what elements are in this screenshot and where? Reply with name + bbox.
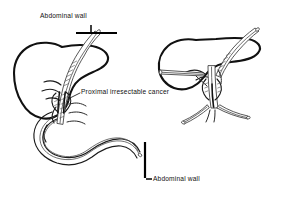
duodenal-loop-inner-wall xyxy=(43,119,140,158)
medical-illustration-figure: Abdominal wall Proximal irresectable can… xyxy=(0,0,284,200)
bile-duct-branch-lower xyxy=(67,121,85,124)
label-abdominal-wall-bottom: Abdominal wall xyxy=(153,175,200,182)
label-abdominal-wall-top: Abdominal wall xyxy=(40,12,87,19)
bile-duct-branch-mid xyxy=(69,112,87,115)
label-proximal-cancer: Proximal irresectable cancer xyxy=(81,88,170,95)
abdominal-wall-marker-bottom xyxy=(145,142,152,179)
catheter-tip-left-right-panel xyxy=(159,70,162,74)
right-panel-group xyxy=(159,27,260,125)
duct-stub-right-a xyxy=(206,110,210,122)
left-panel-group xyxy=(14,25,152,179)
bile-duct-branch-upper xyxy=(70,103,86,106)
catheter-tip-lower xyxy=(138,153,143,158)
tube-lower-edge-a xyxy=(40,116,139,160)
duct-stub-right-b xyxy=(214,110,215,122)
catheter-tip-lower-right-right-panel xyxy=(246,116,250,119)
illustration-canvas: Abdominal wall Proximal irresectable can… xyxy=(0,0,284,200)
